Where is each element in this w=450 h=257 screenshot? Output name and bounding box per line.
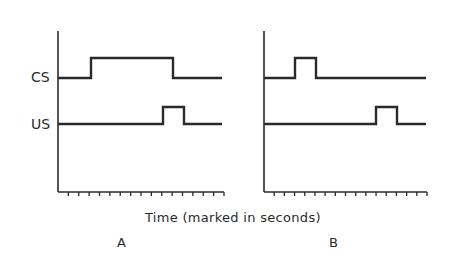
- us-label: US: [31, 117, 50, 131]
- panel-a-cs-waveform: [58, 58, 222, 78]
- panel-label-b: B: [329, 236, 338, 249]
- panel-b-us-waveform: [264, 107, 426, 124]
- cs-label: CS: [31, 70, 50, 84]
- panel-label-a: A: [117, 236, 126, 249]
- time-axis-title: Time (marked in seconds): [145, 211, 321, 224]
- panel-a-us-waveform: [58, 107, 222, 124]
- conditioning-timing-diagram: CS US Time (marked in seconds) A B: [0, 0, 450, 257]
- panel-b-cs-waveform: [264, 58, 426, 78]
